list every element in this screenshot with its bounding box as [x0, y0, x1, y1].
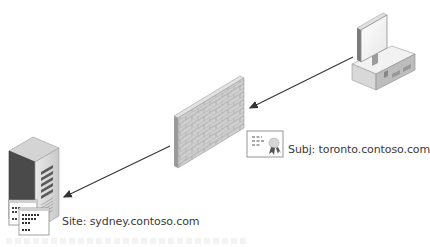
desktop-computer-icon — [352, 13, 415, 90]
cropped-caption-fragment — [6, 238, 246, 244]
arrow-client-to-firewall — [250, 57, 353, 108]
certificate-icon — [247, 131, 283, 157]
arrow-firewall-to-server — [64, 146, 170, 197]
brick-firewall-icon — [174, 76, 244, 168]
server-site-label: Site: sydney.contoso.com — [62, 215, 199, 228]
certificate-subject-label: Subj: toronto.contoso.com — [288, 143, 430, 156]
